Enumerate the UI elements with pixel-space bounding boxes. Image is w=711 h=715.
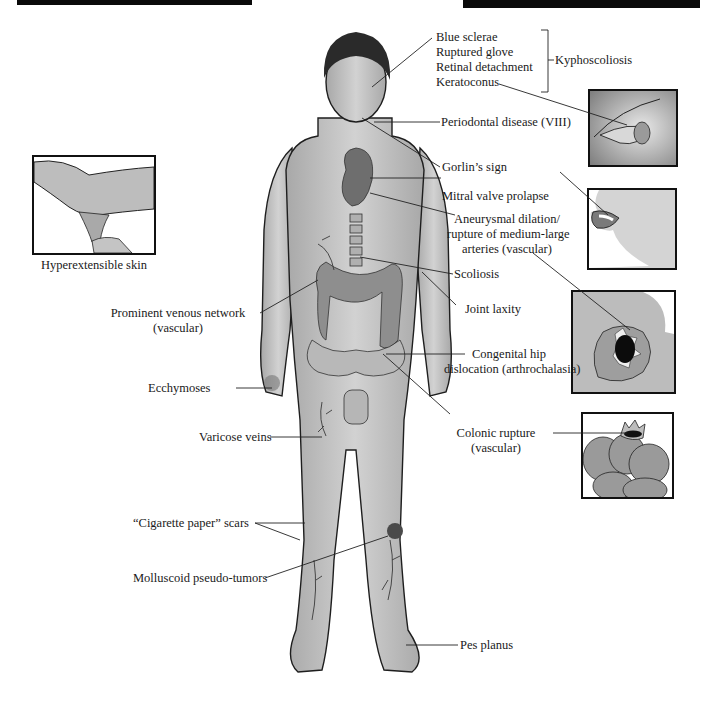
label-gorlins-sign: Gorlin’s sign bbox=[442, 160, 507, 175]
anatomical-figure bbox=[0, 0, 711, 715]
label-periodontal-disease: Periodontal disease (VIII) bbox=[441, 115, 571, 130]
label-line-3: arteries (vascular) bbox=[447, 242, 567, 257]
label-line-1: Aneurysmal dilation/ bbox=[447, 212, 567, 227]
label-scoliosis: Scoliosis bbox=[454, 267, 499, 282]
label-blue-sclerae: Blue sclerae bbox=[436, 30, 533, 45]
label-line-1: Colonic rupture bbox=[448, 426, 544, 441]
label-line-2: rupture of medium-large bbox=[447, 227, 567, 242]
molluscoid-tumor bbox=[387, 523, 403, 539]
label-varicose-veins: Varicose veins bbox=[199, 430, 272, 445]
label-cigarette-paper-scars: “Cigarette paper” scars bbox=[133, 516, 249, 531]
label-ecchymoses: Ecchymoses bbox=[148, 381, 210, 396]
label-line-1: Congenital hip bbox=[444, 347, 574, 362]
label-aneurysmal-dilation: Aneurysmal dilation/ rupture of medium-l… bbox=[447, 212, 567, 257]
label-keratoconus: Keratoconus bbox=[436, 75, 533, 90]
label-congenital-hip-dislocation: Congenital hip dislocation (arthrochalas… bbox=[444, 347, 574, 377]
label-joint-laxity: Joint laxity bbox=[465, 302, 521, 317]
label-mitral-valve-prolapse: Mitral valve prolapse bbox=[442, 189, 549, 204]
label-line-1: Prominent venous network bbox=[98, 306, 258, 321]
label-kyphoscoliosis: Kyphoscoliosis bbox=[555, 53, 632, 68]
ecchymosis bbox=[264, 375, 280, 391]
label-retinal-detachment: Retinal detachment bbox=[436, 60, 533, 75]
bracket-group-items: Blue sclerae Ruptured glove Retinal deta… bbox=[436, 30, 533, 90]
label-line-2: (vascular) bbox=[448, 441, 544, 456]
label-prominent-venous-network: Prominent venous network (vascular) bbox=[98, 306, 258, 336]
label-line-2: dislocation (arthrochalasia) bbox=[444, 362, 574, 377]
label-colonic-rupture: Colonic rupture (vascular) bbox=[448, 426, 544, 456]
label-molluscoid-pseudo-tumors: Molluscoid pseudo-tumors bbox=[133, 571, 267, 586]
label-pes-planus: Pes planus bbox=[460, 638, 513, 653]
label-ruptured-glove: Ruptured glove bbox=[436, 45, 533, 60]
caption-hyperextensible-skin: Hyperextensible skin bbox=[34, 258, 154, 273]
label-line-2: (vascular) bbox=[98, 321, 258, 336]
